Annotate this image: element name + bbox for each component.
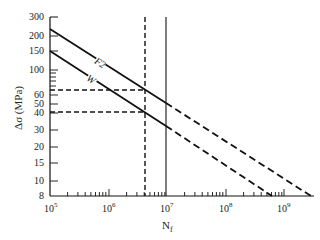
x-axis-title: Nf	[162, 219, 173, 234]
y-tick-30: 30	[34, 124, 44, 135]
y-ticks	[50, 36, 58, 181]
f2-curve-dashed	[166, 103, 311, 196]
y-tick-200: 200	[29, 30, 44, 41]
y-tick-300: 300	[29, 11, 44, 22]
x-ticks	[68, 189, 284, 196]
y-tick-labels: 300 200 150 100 60 50 40 30 20 15 10 8	[29, 11, 44, 201]
y-tick-40: 40	[34, 107, 44, 118]
f2-curve-solid	[50, 29, 166, 103]
y-axis-title: Δσ (MPa)	[12, 86, 25, 130]
x-tick-1e5: 105	[44, 201, 58, 214]
y-tick-15: 15	[34, 157, 44, 168]
y-tick-8: 8	[39, 190, 44, 201]
y-tick-20: 20	[34, 141, 44, 152]
x-tick-1e8: 108	[219, 201, 233, 214]
x-tick-1e6: 106	[102, 201, 116, 214]
x-tick-labels: 105 106 107 108 109	[44, 201, 291, 214]
x-tick-1e9: 109	[277, 201, 291, 214]
y-tick-10: 10	[34, 175, 44, 186]
sn-curve-chart: 300 200 150 100 60 50 40 30 20 15 10 8 Δ…	[0, 0, 320, 240]
w-curve-dashed	[166, 126, 272, 196]
y-tick-150: 150	[29, 45, 44, 56]
x-tick-1e7: 107	[160, 201, 174, 214]
y-tick-100: 100	[29, 64, 44, 75]
w-curve-solid	[50, 51, 166, 126]
